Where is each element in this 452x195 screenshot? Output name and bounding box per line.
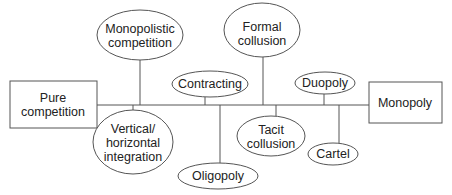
cartel-label: Cartel (316, 147, 349, 161)
monopolistic-competition-label: Monopolistic competition (105, 22, 174, 50)
duopoly-label: Duopoly (302, 76, 348, 90)
formal-collusion-label: Formal collusion (238, 20, 287, 48)
oligopoly-label: Oligopoly (192, 169, 244, 183)
tacit-collusion-label: Tacit collusion (247, 123, 296, 151)
contracting-label: Contracting (178, 77, 242, 91)
pure-competition-label: Pure competition (21, 91, 85, 119)
vertical-horizontal-integration-label: Vertical/ horizontal integration (104, 122, 162, 164)
monopoly-label: Monopoly (378, 96, 432, 110)
